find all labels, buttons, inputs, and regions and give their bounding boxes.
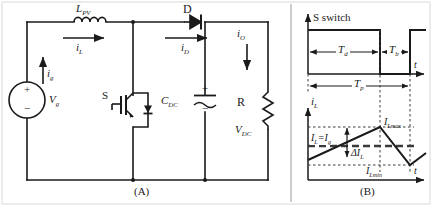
capacitor-minus-sign: − bbox=[202, 103, 208, 114]
resistor-symbol bbox=[263, 92, 273, 130]
ripple-label: ΔIL bbox=[351, 148, 364, 160]
inductor-current-label: iL bbox=[76, 42, 83, 56]
source-voltage-label: Vg bbox=[49, 94, 59, 108]
source-plus-sign: + bbox=[24, 84, 30, 95]
inductor-symbol bbox=[74, 17, 106, 22]
diode-symbol bbox=[184, 15, 201, 30]
output-voltage-label: VDC bbox=[235, 124, 251, 138]
switch-plot-axes bbox=[308, 14, 424, 74]
switch-signal-label: S switch bbox=[313, 12, 351, 23]
current-arrows bbox=[43, 38, 247, 84]
off-time-label: Tb bbox=[387, 44, 401, 58]
diode-label: D bbox=[183, 3, 192, 15]
caption-a: (A) bbox=[134, 186, 149, 197]
max-current-label: ILmax bbox=[384, 117, 401, 129]
igbt-switch-symbol bbox=[112, 93, 153, 127]
resistor-label: R bbox=[237, 96, 245, 108]
switch-label: S bbox=[102, 90, 108, 101]
current-time-axis-label: t bbox=[414, 166, 417, 176]
caption-b: (B) bbox=[360, 186, 375, 197]
diode-current-label: iD bbox=[181, 42, 189, 56]
average-current-label: IL=Ig bbox=[310, 133, 332, 145]
output-current-label: iO bbox=[237, 28, 245, 42]
min-current-label: ILmin bbox=[366, 166, 382, 178]
period-label: Tp bbox=[352, 78, 366, 92]
source-current-label: ig bbox=[47, 68, 53, 82]
capacitor-plus-sign: + bbox=[202, 83, 208, 94]
capacitor-label: CDC bbox=[161, 95, 178, 109]
source-minus-sign: − bbox=[24, 103, 30, 114]
switch-time-axis-label: t bbox=[414, 60, 417, 70]
inductor-label: LPV bbox=[76, 3, 90, 17]
figure-container: LPV iL D iD ig + − Vg S CDC + − R VDC iO… bbox=[0, 0, 432, 206]
inductor-current-signal-label: iL bbox=[311, 96, 318, 110]
on-time-label: Td bbox=[336, 44, 350, 58]
